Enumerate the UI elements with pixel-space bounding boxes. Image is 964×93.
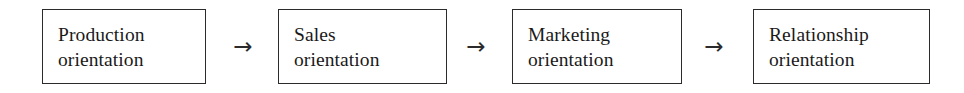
flow-box-label-line2: orientation bbox=[294, 47, 380, 72]
arrow-right-icon-3: → bbox=[697, 33, 731, 59]
flow-box-marketing-orientation[interactable]: Marketing orientation bbox=[512, 9, 682, 84]
flow-diagram: Production orientation → Sales orientati… bbox=[0, 0, 964, 93]
flow-box-label-line1: Relationship bbox=[769, 22, 869, 47]
flow-box-relationship-orientation[interactable]: Relationship orientation bbox=[753, 9, 930, 84]
arrow-right-icon-2: → bbox=[459, 33, 493, 59]
flow-box-label-line2: orientation bbox=[769, 47, 855, 72]
flow-box-label-line2: orientation bbox=[528, 47, 614, 72]
flow-box-label-line1: Marketing bbox=[528, 22, 610, 47]
flow-box-label-line1: Production bbox=[58, 22, 145, 47]
flow-box-production-orientation[interactable]: Production orientation bbox=[42, 9, 206, 84]
flow-box-label-line2: orientation bbox=[58, 47, 144, 72]
flow-box-label-line1: Sales bbox=[294, 22, 336, 47]
flow-box-sales-orientation[interactable]: Sales orientation bbox=[278, 9, 447, 84]
arrow-right-icon-1: → bbox=[226, 33, 260, 59]
